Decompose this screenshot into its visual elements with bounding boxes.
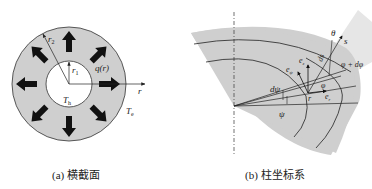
outer-temperature-label: Te — [126, 106, 134, 117]
cross-section-panel: r2 r1 q(r) r Th Te (a) 横截面 — [0, 0, 186, 189]
phi-dphi-label: φ + dφ — [341, 60, 364, 69]
caption-cylindrical-coordinates: (b) 柱坐标系 — [245, 166, 305, 182]
r-axis-label: r — [138, 86, 142, 96]
psi-label: ψ — [279, 109, 285, 119]
dpsi-label: dψ — [270, 84, 281, 94]
cross-section-diagram: r2 r1 q(r) r Th Te — [0, 0, 186, 189]
cylindrical-coordinates-diagram: θ s ds φ + dφ eψ ez er dψ ψ φ r — [186, 0, 372, 189]
s-label: s — [344, 36, 348, 46]
theta-label: θ — [331, 28, 336, 38]
phi-label: φ — [321, 81, 326, 90]
cylindrical-coordinates-panel: θ s ds φ + dφ eψ ez er dψ ψ φ r (b) 柱坐标系 — [186, 0, 372, 189]
caption-cross-section: (a) 横截面 — [52, 166, 100, 182]
heat-flux-label: q(r) — [95, 63, 109, 73]
